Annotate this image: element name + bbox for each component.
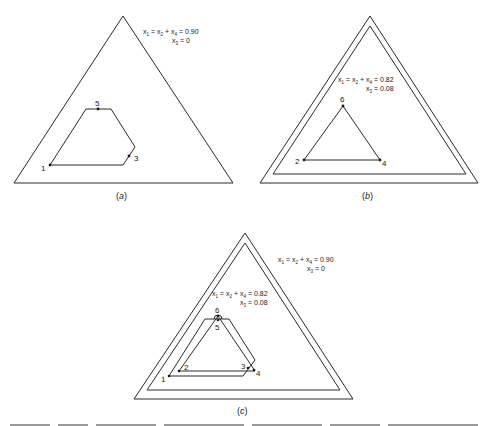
equation-x1: x1 = x2 + x4 = 0.82: [338, 76, 394, 85]
equation-outer-x1: x1 = x2 + x4 = 0.90: [278, 256, 334, 265]
point-label-5: 5: [215, 323, 220, 332]
panel-caption-b: (b): [362, 191, 373, 201]
outer-triangle: [260, 16, 478, 183]
point-label-2: 2: [184, 363, 189, 372]
point-marker-5: [97, 108, 100, 111]
point-marker-2: [303, 159, 306, 162]
point-label-6: 6: [340, 95, 345, 104]
point-marker-1: [49, 164, 52, 167]
point-marker-1: [168, 375, 171, 378]
panel-c: 6 5 2 3 4 1 x1 = x2 + x4 = 0.90 x3 = 0 x…: [134, 233, 353, 416]
equation-x1: x1 = x2 + x4 = 0.90: [143, 28, 199, 37]
equation-inner-x1: x1 = x2 + x4 = 0.82: [212, 290, 268, 299]
inner-triangle: [273, 26, 466, 174]
point-label-2: 2: [295, 157, 300, 166]
equation-x3: x3 = 0.08: [366, 85, 394, 94]
point-marker-3: [128, 155, 131, 158]
point-marker-2: [178, 370, 181, 373]
hexagon-region: [50, 109, 135, 165]
point-marker-3: [247, 367, 250, 370]
point-marker-4: [253, 369, 256, 372]
point-marker-6: [217, 315, 220, 318]
point-label-4: 4: [382, 159, 387, 168]
point-label-3: 3: [134, 154, 139, 163]
point-marker-5: [217, 319, 220, 322]
point-label-4: 4: [256, 369, 261, 378]
panel-caption-c: (c): [237, 406, 248, 416]
diagram-canvas: 5 3 1 x1 = x2 + x4 = 0.90 x3 = 0 (a) 6 2…: [0, 0, 490, 426]
equation-inner-x3: x3 = 0.08: [240, 299, 268, 308]
equation-outer-x3: x3 = 0: [307, 265, 325, 274]
panel-b: 6 2 4 x1 = x2 + x4 = 0.82 x3 = 0.08 (b): [260, 16, 478, 201]
point-marker-6: [342, 105, 345, 108]
point-label-1: 1: [161, 375, 166, 384]
panel-a: 5 3 1 x1 = x2 + x4 = 0.90 x3 = 0 (a): [14, 16, 233, 201]
point-label-6: 6: [215, 306, 220, 315]
outer-triangle: [14, 16, 233, 183]
point-label-1: 1: [41, 164, 46, 173]
point-marker-4: [379, 159, 382, 162]
small-triangle-region: [304, 106, 380, 160]
panel-caption-a: (a): [116, 191, 127, 201]
equation-x3: x3 = 0: [172, 37, 190, 46]
point-label-3: 3: [241, 362, 246, 371]
point-label-5: 5: [95, 99, 100, 108]
